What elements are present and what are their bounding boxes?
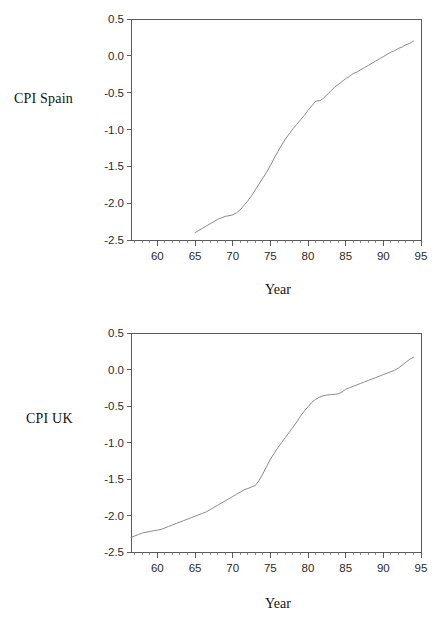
x-tick-label: 95 — [415, 250, 428, 262]
y-tick-label: -1.5 — [104, 160, 124, 172]
x-tick-label: 85 — [339, 250, 352, 262]
x-tick-label: 80 — [302, 250, 315, 262]
x-tick-label: 60 — [151, 562, 164, 574]
x-tick-label: 85 — [339, 562, 352, 574]
x-tick-label: 75 — [264, 562, 277, 574]
y-tick-label: -2.0 — [104, 510, 124, 522]
plot-area-spain: -2.5-2.0-1.5-1.0-0.50.00.560657075808590… — [0, 0, 448, 311]
y-tick-label: 0.5 — [108, 13, 124, 25]
x-tick-label: 80 — [302, 562, 315, 574]
y-tick-label: -0.5 — [104, 400, 124, 412]
x-tick-label: 65 — [189, 250, 202, 262]
y-tick-label: -0.5 — [104, 87, 124, 99]
x-tick-label: 65 — [189, 562, 202, 574]
x-tick-label: 75 — [264, 250, 277, 262]
data-line-cpi-uk — [131, 357, 413, 537]
x-tick-label: 70 — [226, 250, 239, 262]
chart-cpi-uk: CPI UK Year -2.5-2.0-1.5-1.0-0.50.00.560… — [0, 311, 448, 622]
data-line-cpi-spain — [195, 41, 413, 233]
x-tick-label: 70 — [226, 562, 239, 574]
y-tick-label: -2.5 — [104, 234, 124, 246]
x-tick-label: 60 — [151, 250, 164, 262]
y-tick-label: -2.5 — [104, 546, 124, 558]
axis-frame — [131, 19, 421, 240]
x-tick-label: 90 — [377, 562, 390, 574]
y-tick-label: 0.0 — [108, 50, 124, 62]
y-tick-label: 0.5 — [108, 327, 124, 339]
y-tick-label: -1.0 — [104, 124, 124, 136]
axis-frame — [131, 333, 421, 552]
y-tick-label: -2.0 — [104, 197, 124, 209]
x-tick-label: 95 — [415, 562, 428, 574]
y-tick-label: -1.0 — [104, 437, 124, 449]
y-tick-label: -1.5 — [104, 473, 124, 485]
y-tick-label: 0.0 — [108, 364, 124, 376]
chart-cpi-spain: CPI Spain Year -2.5-2.0-1.5-1.0-0.50.00.… — [0, 0, 448, 311]
x-tick-label: 90 — [377, 250, 390, 262]
plot-area-uk: -2.5-2.0-1.5-1.0-0.50.00.560657075808590… — [0, 311, 448, 622]
